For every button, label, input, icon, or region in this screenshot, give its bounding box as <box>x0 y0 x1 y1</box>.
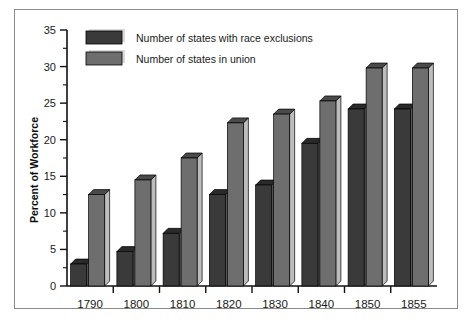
y-axis-title: Percent of Workforce <box>28 117 40 223</box>
bar-front-face <box>71 264 87 286</box>
bar-front-face <box>320 101 336 286</box>
bar-front-face <box>348 109 364 286</box>
bar-union-1790 <box>89 190 110 286</box>
bar-union-1855 <box>412 63 433 286</box>
bar-union-1840 <box>320 96 341 286</box>
y-axis-title-group: Percent of Workforce <box>28 117 40 223</box>
bar-side-face <box>151 175 156 286</box>
bar-front-face <box>181 158 197 286</box>
y-tick-label: 0 <box>50 280 56 292</box>
bar-front-face <box>256 185 272 286</box>
bar-front-face <box>366 68 382 286</box>
bar-front-face <box>117 252 133 286</box>
chart-legend: Number of states with race exclusionsNum… <box>86 29 313 65</box>
bars-layer <box>71 63 434 286</box>
bar-front-face <box>412 68 428 286</box>
bar-side-face <box>336 96 341 286</box>
bar-union-1830 <box>274 109 295 286</box>
x-tick-label: 1830 <box>262 298 288 310</box>
y-tick-label: 30 <box>44 61 56 73</box>
x-tick-label: 1820 <box>216 298 242 310</box>
bar-union-1810 <box>181 153 202 286</box>
y-tick-label: 15 <box>44 170 56 182</box>
x-tick-label: 1840 <box>309 298 335 310</box>
x-tick-label: 1810 <box>170 298 196 310</box>
bar-side-face <box>382 63 387 286</box>
x-tick-label: 1855 <box>401 298 427 310</box>
chart-figure: 05101520253035 1790180018101820183018401… <box>0 0 472 333</box>
legend-swatch <box>86 31 122 44</box>
bar-union-1800 <box>135 175 156 286</box>
y-tick-label: 25 <box>44 97 56 109</box>
y-tick-label: 10 <box>44 207 56 219</box>
legend-label: Number of states with race exclusions <box>136 32 313 44</box>
bar-side-face <box>428 63 433 286</box>
bar-chart-svg: 05101520253035 1790180018101820183018401… <box>0 0 472 333</box>
bar-front-face <box>163 233 179 286</box>
bar-union-1850 <box>366 63 387 286</box>
legend-swatch <box>86 52 122 65</box>
bar-front-face <box>135 180 151 286</box>
x-axis: 17901800181018201830184018501855 <box>67 286 437 310</box>
bar-front-face <box>227 123 243 286</box>
bar-front-face <box>209 195 225 286</box>
bar-side-face <box>243 118 248 286</box>
y-tick-label: 20 <box>44 134 56 146</box>
x-tick-label: 1800 <box>124 298 150 310</box>
bar-union-1820 <box>227 118 248 286</box>
bar-front-face <box>89 195 105 286</box>
bar-side-face <box>290 109 295 286</box>
x-tick-label: 1790 <box>77 298 103 310</box>
y-tick-label: 5 <box>50 243 56 255</box>
y-tick-label: 35 <box>44 24 56 36</box>
legend-item-exclusions: Number of states with race exclusions <box>86 29 313 44</box>
bar-front-face <box>394 109 410 286</box>
x-tick-label: 1850 <box>355 298 381 310</box>
bar-front-face <box>302 143 318 286</box>
bar-side-face <box>197 153 202 286</box>
bar-side-face <box>105 190 110 286</box>
y-axis: 05101520253035 <box>44 24 67 292</box>
bar-front-face <box>274 114 290 286</box>
legend-item-union: Number of states in union <box>86 50 256 65</box>
legend-label: Number of states in union <box>136 53 256 65</box>
